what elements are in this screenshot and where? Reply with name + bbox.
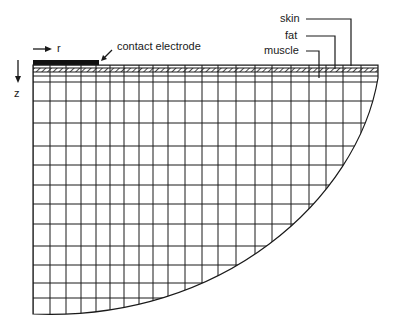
mesh-grid — [33, 65, 378, 319]
contact-electrode — [33, 60, 99, 65]
electrode-pointer-arrow-icon — [101, 50, 112, 61]
muscle-label: muscle — [264, 45, 299, 56]
r-axis-arrow-icon — [33, 46, 52, 52]
fat-leader — [306, 36, 335, 69]
skin-leader — [306, 19, 351, 66]
z-axis-arrow-icon — [15, 60, 21, 83]
r-axis-label: r — [57, 43, 61, 54]
fat-label: fat — [285, 30, 297, 41]
electrode-label: contact electrode — [117, 41, 201, 52]
skin-label: skin — [280, 13, 300, 24]
z-axis-label: z — [14, 88, 20, 99]
